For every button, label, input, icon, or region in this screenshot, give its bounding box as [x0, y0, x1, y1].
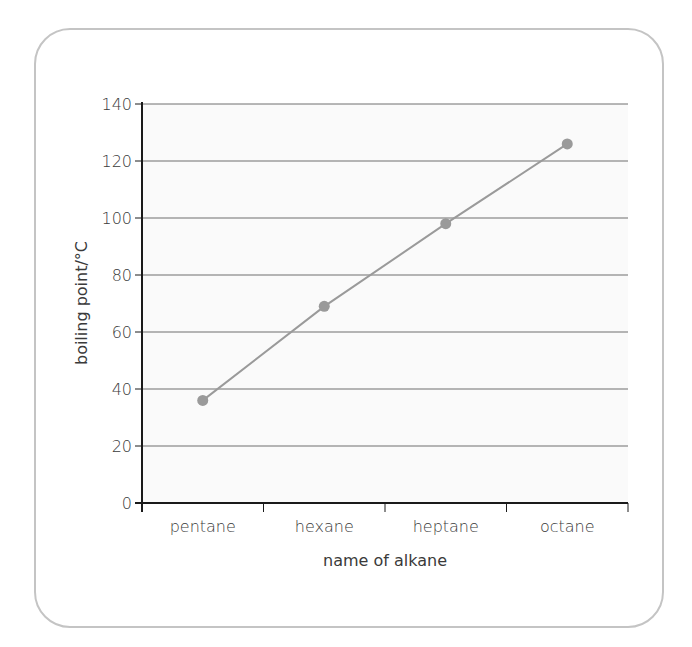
- data-point-heptane: [440, 218, 451, 229]
- x-axis-ticks: pentanehexaneheptaneoctane: [142, 503, 628, 536]
- x-tick-label-hexane: hexane: [295, 517, 354, 536]
- y-tick-label: 40: [112, 380, 132, 399]
- y-axis-title: boiling point/°C: [72, 241, 91, 365]
- y-axis-ticks: 020406080100120140: [101, 95, 142, 513]
- y-tick-label: 60: [112, 323, 132, 342]
- plot-area: [142, 104, 628, 503]
- y-tick-label: 80: [112, 266, 132, 285]
- data-point-pentane: [197, 395, 208, 406]
- data-point-hexane: [319, 301, 330, 312]
- y-tick-label: 120: [101, 152, 132, 171]
- x-tick-label-octane: octane: [540, 517, 595, 536]
- data-point-octane: [562, 138, 573, 149]
- x-tick-label-heptane: heptane: [413, 517, 479, 536]
- y-tick-label: 140: [101, 95, 132, 114]
- line-chart: 020406080100120140 pentanehexaneheptaneo…: [0, 0, 692, 647]
- y-tick-label: 100: [101, 209, 132, 228]
- x-axis-title: name of alkane: [323, 551, 447, 570]
- y-tick-label: 20: [112, 437, 132, 456]
- y-tick-label: 0: [122, 494, 132, 513]
- x-tick-label-pentane: pentane: [170, 517, 236, 536]
